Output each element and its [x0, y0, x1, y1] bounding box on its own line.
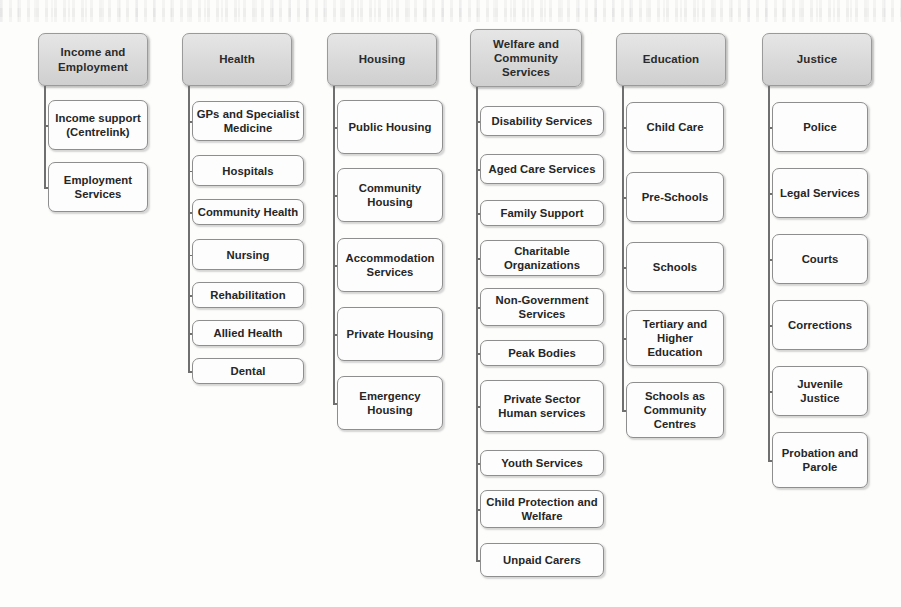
node-justice-0[interactable]: Police [772, 102, 868, 152]
node-education-2[interactable]: Schools [626, 242, 724, 292]
scan-artifact-band-secondary [0, 8, 901, 17]
node-health-3[interactable]: Nursing [192, 239, 304, 270]
node-justice-2[interactable]: Courts [772, 234, 868, 284]
node-education-4[interactable]: Schools as Community Centres [626, 382, 724, 438]
header-node-welfare-and-community-services[interactable]: Welfare and Community Services [470, 29, 582, 87]
node-income-and-employment-1[interactable]: Employment Services [48, 162, 148, 212]
connector-trunk-justice [768, 86, 770, 460]
node-welfare-and-community-services-8[interactable]: Child Protection and Welfare [480, 490, 604, 528]
connector-trunk-education [622, 86, 624, 410]
node-justice-5[interactable]: Probation and Parole [772, 432, 868, 488]
node-welfare-and-community-services-0[interactable]: Disability Services [480, 106, 604, 136]
header-node-justice[interactable]: Justice [762, 33, 872, 86]
node-justice-1[interactable]: Legal Services [772, 168, 868, 218]
node-justice-4[interactable]: Juvenile Justice [772, 366, 868, 416]
connector-trunk-welfare-and-community-services [476, 87, 478, 560]
node-housing-0[interactable]: Public Housing [337, 100, 443, 154]
node-welfare-and-community-services-1[interactable]: Aged Care Services [480, 154, 604, 184]
node-education-1[interactable]: Pre-Schools [626, 172, 724, 222]
header-node-income-and-employment[interactable]: Income and Employment [38, 33, 148, 86]
node-health-4[interactable]: Rehabilitation [192, 282, 304, 308]
node-health-2[interactable]: Community Health [192, 199, 304, 225]
header-node-health[interactable]: Health [182, 33, 292, 86]
node-justice-3[interactable]: Corrections [772, 300, 868, 350]
node-welfare-and-community-services-9[interactable]: Unpaid Carers [480, 543, 604, 577]
connector-trunk-health [188, 86, 190, 371]
node-housing-3[interactable]: Private Housing [337, 307, 443, 361]
node-welfare-and-community-services-4[interactable]: Non-Government Services [480, 288, 604, 326]
node-education-3[interactable]: Tertiary and Higher Education [626, 310, 724, 366]
diagram-canvas: Income and EmploymentIncome support (Cen… [0, 0, 901, 607]
node-health-0[interactable]: GPs and Specialist Medicine [192, 101, 304, 141]
node-welfare-and-community-services-2[interactable]: Family Support [480, 200, 604, 226]
node-welfare-and-community-services-5[interactable]: Peak Bodies [480, 340, 604, 366]
node-health-6[interactable]: Dental [192, 358, 304, 384]
connector-trunk-housing [333, 86, 335, 403]
header-node-housing[interactable]: Housing [327, 33, 437, 86]
node-welfare-and-community-services-7[interactable]: Youth Services [480, 450, 604, 476]
node-housing-1[interactable]: Community Housing [337, 168, 443, 222]
scan-artifact-band [0, 0, 901, 22]
header-node-education[interactable]: Education [616, 33, 726, 86]
connector-trunk-income-and-employment [44, 86, 46, 187]
node-income-and-employment-0[interactable]: Income support (Centrelink) [48, 100, 148, 150]
node-health-1[interactable]: Hospitals [192, 155, 304, 186]
node-housing-2[interactable]: Accommodation Services [337, 238, 443, 292]
node-welfare-and-community-services-6[interactable]: Private Sector Human services [480, 380, 604, 432]
node-health-5[interactable]: Allied Health [192, 320, 304, 346]
node-education-0[interactable]: Child Care [626, 102, 724, 152]
node-welfare-and-community-services-3[interactable]: Charitable Organizations [480, 240, 604, 276]
node-housing-4[interactable]: Emergency Housing [337, 376, 443, 430]
